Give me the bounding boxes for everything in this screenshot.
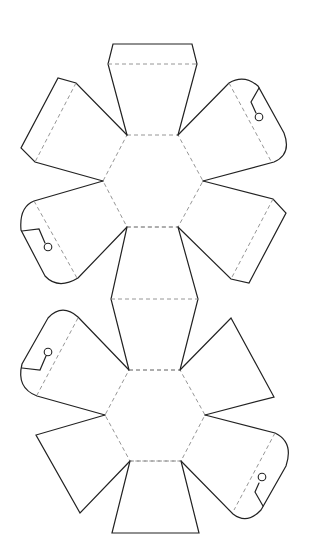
keyhole-slot xyxy=(251,88,259,113)
bottom-flap xyxy=(112,461,199,533)
keyhole-slot xyxy=(22,229,45,243)
bottom-left-triangle-flap xyxy=(36,415,130,513)
keyhole-icon xyxy=(44,243,52,251)
keyhole-slot xyxy=(255,483,263,506)
hex-fold-ticks xyxy=(127,227,181,461)
lower-left-slot-flap xyxy=(21,310,129,415)
keyhole-icon xyxy=(258,473,266,481)
top-flap xyxy=(108,44,197,135)
lower-right-triangle-flap xyxy=(180,318,274,415)
top-hexagon xyxy=(103,135,203,227)
bottom-hexagon xyxy=(105,370,205,461)
connector-band xyxy=(111,227,198,370)
keyhole-icon xyxy=(255,113,263,121)
box-net-diagram xyxy=(0,0,312,557)
keyhole-icon xyxy=(44,348,52,356)
